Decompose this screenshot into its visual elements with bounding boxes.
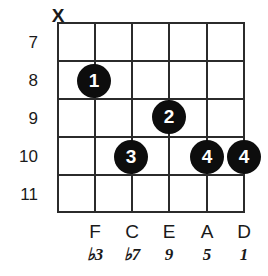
interval-string-6: 1 (226, 246, 262, 263)
finger-dot-4a: 4 (190, 140, 224, 174)
finger-dot-3: 3 (114, 140, 148, 174)
string-line-1 (57, 22, 59, 213)
string-line-2 (94, 22, 96, 213)
note-name-string-6: D (229, 222, 259, 241)
fret-line-8-9 (57, 98, 245, 100)
finger-dot-4b: 4 (227, 140, 261, 174)
fret-line-10-11 (57, 174, 245, 176)
chord-diagram: 7 8 9 10 11 X 1 2 3 4 4 F C E A D ♭3 ♭7 … (0, 0, 268, 276)
fret-number-10: 10 (4, 148, 38, 165)
fret-number-7: 7 (4, 34, 38, 51)
finger-dot-1: 1 (77, 64, 111, 98)
fret-line-7-8 (57, 60, 245, 62)
fret-number-11: 11 (4, 186, 38, 203)
fret-line-9-10 (57, 136, 245, 138)
fret-line-bottom (57, 211, 245, 213)
note-name-string-4: E (154, 222, 184, 241)
note-name-string-5: A (192, 222, 222, 241)
interval-string-3: ♭7 (114, 246, 150, 263)
interval-string-4: 9 (151, 246, 187, 263)
fret-number-9: 9 (4, 110, 38, 127)
string-line-5 (206, 22, 208, 213)
string-line-3 (131, 22, 133, 213)
interval-string-2: ♭3 (77, 246, 113, 263)
fret-number-8: 8 (4, 72, 38, 89)
string-line-6 (243, 22, 245, 213)
note-name-string-2: F (80, 222, 110, 241)
fret-line-top (57, 22, 245, 24)
finger-dot-2: 2 (152, 100, 186, 134)
interval-string-5: 5 (189, 246, 225, 263)
note-name-string-3: C (117, 222, 147, 241)
